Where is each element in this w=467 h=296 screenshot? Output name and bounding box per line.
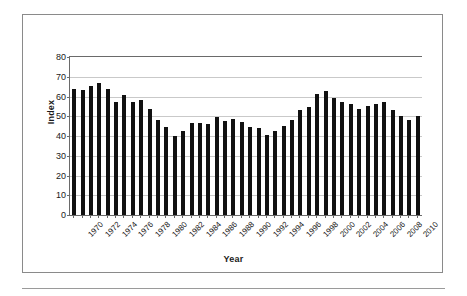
- x-tick-mark: [249, 215, 250, 218]
- x-tick-mark: [199, 215, 200, 218]
- bar: [315, 94, 319, 215]
- bar: [156, 120, 160, 215]
- y-tick-label: 10: [56, 190, 66, 200]
- x-tick-mark: [123, 215, 124, 218]
- y-tick-label: 50: [56, 111, 66, 121]
- bar-series: [70, 57, 422, 215]
- bar: [164, 127, 168, 215]
- x-tick-mark: [115, 215, 116, 218]
- bar: [366, 106, 370, 215]
- x-tick-mark: [408, 215, 409, 218]
- x-tick-mark: [73, 215, 74, 218]
- bar: [374, 104, 378, 215]
- bar: [298, 110, 302, 215]
- bar: [190, 123, 194, 215]
- x-tick-mark: [274, 215, 275, 218]
- bar: [148, 109, 152, 215]
- bar: [206, 124, 210, 215]
- bar: [282, 126, 286, 215]
- bar: [223, 121, 227, 215]
- bar: [81, 90, 85, 215]
- x-tick-mark: [308, 215, 309, 218]
- y-tick-label: 20: [56, 171, 66, 181]
- y-tick-label: 40: [56, 131, 66, 141]
- x-tick-label: 1996: [304, 220, 323, 239]
- figure-divider-rule: [22, 288, 445, 289]
- x-tick-mark: [358, 215, 359, 218]
- x-tick-mark: [241, 215, 242, 218]
- x-tick-mark: [174, 215, 175, 218]
- y-tick-label: 80: [56, 52, 66, 62]
- bar: [215, 117, 219, 215]
- x-tick-mark: [182, 215, 183, 218]
- bar: [391, 110, 395, 215]
- x-tick-label: 1980: [170, 220, 189, 239]
- x-tick-label: 1976: [137, 220, 156, 239]
- bar: [324, 91, 328, 215]
- bar: [240, 122, 244, 215]
- x-tick-mark: [107, 215, 108, 218]
- y-tick-label: 70: [56, 72, 66, 82]
- y-tick-label: 0: [61, 210, 66, 220]
- x-tick-mark: [232, 215, 233, 218]
- x-tick-mark: [216, 215, 217, 218]
- bar: [231, 119, 235, 215]
- x-tick-mark: [291, 215, 292, 218]
- bar: [131, 102, 135, 215]
- x-tick-mark: [400, 215, 401, 218]
- x-tick-label: 1990: [254, 220, 273, 239]
- y-tick-label: 30: [56, 151, 66, 161]
- x-tick-label: 2004: [371, 220, 390, 239]
- x-tick-label: 1994: [288, 220, 307, 239]
- x-tick-mark: [157, 215, 158, 218]
- bar: [139, 100, 143, 215]
- bar: [273, 131, 277, 215]
- x-tick-mark: [350, 215, 351, 218]
- bar: [407, 120, 411, 215]
- x-tick-mark: [140, 215, 141, 218]
- x-tick-label: 2006: [388, 220, 407, 239]
- bar: [198, 123, 202, 215]
- x-tick-mark: [207, 215, 208, 218]
- x-tick-label: 1974: [120, 220, 139, 239]
- x-tick-mark: [367, 215, 368, 218]
- x-tick-label: 1998: [321, 220, 340, 239]
- bar: [248, 127, 252, 215]
- x-tick-mark: [299, 215, 300, 218]
- x-tick-label: 1972: [103, 220, 122, 239]
- bar: [382, 102, 386, 215]
- bar-chart: Index 01020304050607080 1970197219741976…: [23, 15, 444, 274]
- bar: [122, 95, 126, 215]
- bar: [89, 86, 93, 215]
- x-tick-label: 1986: [220, 220, 239, 239]
- bar: [265, 135, 269, 215]
- bar: [97, 83, 101, 215]
- x-tick-mark: [325, 215, 326, 218]
- x-tick-mark: [283, 215, 284, 218]
- bar: [340, 102, 344, 215]
- x-tick-mark: [316, 215, 317, 218]
- x-tick-mark: [375, 215, 376, 218]
- x-tick-label: 1988: [237, 220, 256, 239]
- x-tick-mark: [191, 215, 192, 218]
- plot-area: 01020304050607080: [69, 56, 422, 215]
- bar: [399, 116, 403, 215]
- bar: [257, 128, 261, 215]
- x-tick-label: 1992: [271, 220, 290, 239]
- x-tick-label: 2000: [338, 220, 357, 239]
- y-axis-title: Index: [46, 82, 56, 142]
- bar: [349, 104, 353, 215]
- x-tick-label: 1982: [187, 220, 206, 239]
- x-tick-mark: [90, 215, 91, 218]
- x-tick-mark: [149, 215, 150, 218]
- x-tick-label: 1978: [153, 220, 172, 239]
- x-tick-mark: [392, 215, 393, 218]
- bar: [307, 107, 311, 215]
- x-tick-mark: [417, 215, 418, 218]
- x-tick-mark: [132, 215, 133, 218]
- x-tick-mark: [258, 215, 259, 218]
- y-tick-label: 60: [56, 92, 66, 102]
- bar: [332, 98, 336, 215]
- x-tick-label: 2008: [405, 220, 424, 239]
- bar: [173, 136, 177, 215]
